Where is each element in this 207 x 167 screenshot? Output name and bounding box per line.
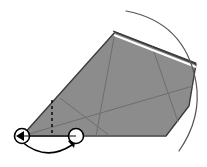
shaded-swept-sector: [22, 32, 196, 136]
geometry-diagram: [0, 0, 207, 167]
rotation-arrow: [22, 142, 72, 153]
figure-canvas: [0, 0, 207, 167]
